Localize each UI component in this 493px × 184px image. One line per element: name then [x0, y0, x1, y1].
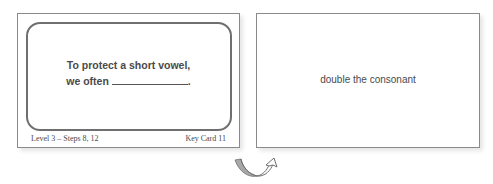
prompt-text-2: we often — [66, 75, 109, 87]
key-card-number: Key Card 11 — [185, 134, 226, 143]
prompt-period: . — [188, 75, 191, 87]
level-steps-label: Level 3 – Steps 8, 12 — [31, 134, 99, 143]
answer-text: double the consonant — [257, 74, 479, 85]
prompt-text-1: To protect a short vowel, — [67, 59, 191, 71]
fill-in-blank — [112, 75, 188, 85]
key-card-back: double the consonant — [256, 13, 480, 148]
flip-curl-arrow-icon — [233, 156, 281, 180]
prompt-line-2: we often. — [18, 75, 239, 87]
key-card-front: To protect a short vowel, we often. Leve… — [17, 13, 240, 148]
prompt-line-1: To protect a short vowel, — [18, 59, 239, 71]
